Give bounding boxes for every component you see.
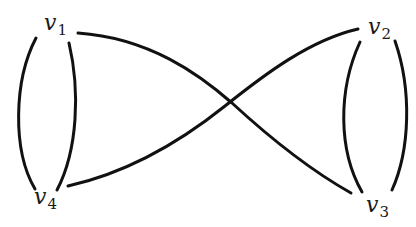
vertex-label-v2: v2 [368, 16, 391, 42]
edge-v4-v2 [68, 29, 358, 186]
vertex-label-v3: v3 [366, 194, 389, 220]
vertex-subscript: 4 [47, 195, 57, 213]
edge-v2-v3-outer [392, 41, 407, 190]
vertex-name: v [366, 192, 378, 217]
vertex-subscript: 2 [381, 25, 391, 43]
vertex-label-v1: v1 [44, 12, 67, 38]
vertex-name: v [44, 10, 56, 35]
vertex-name: v [34, 184, 46, 209]
edge-v2-v3-inner [344, 42, 362, 192]
edge-v1-v4-inner [57, 43, 76, 190]
vertex-name: v [368, 14, 380, 39]
vertex-subscript: 3 [379, 203, 389, 221]
vertex-subscript: 1 [57, 21, 67, 39]
edge-v1-v4-outer [19, 38, 36, 189]
vertex-label-v4: v4 [34, 186, 57, 212]
